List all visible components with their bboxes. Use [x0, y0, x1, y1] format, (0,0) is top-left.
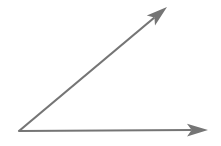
angle-svg-canvas [0, 0, 221, 146]
horizontal-ray-shaft [19, 130, 192, 131]
vertex-point [18, 130, 20, 132]
angle-diagram [0, 0, 221, 146]
